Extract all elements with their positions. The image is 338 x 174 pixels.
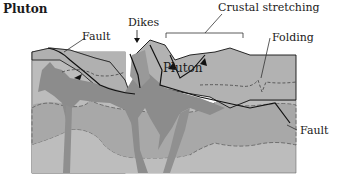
pluton-cross-section bbox=[0, 0, 338, 174]
dikes-arrow bbox=[134, 38, 140, 43]
label-dikes: Dikes bbox=[128, 16, 159, 29]
stretching-leader bbox=[205, 14, 222, 33]
label-folding: Folding bbox=[272, 31, 314, 44]
label-crustal-stretching: Crustal stretching bbox=[218, 1, 320, 14]
stretching-bracket bbox=[166, 33, 243, 38]
label-pluton: Pluton bbox=[163, 61, 202, 75]
label-fault-right: Fault bbox=[300, 124, 328, 137]
label-fault-left: Fault bbox=[82, 30, 110, 43]
